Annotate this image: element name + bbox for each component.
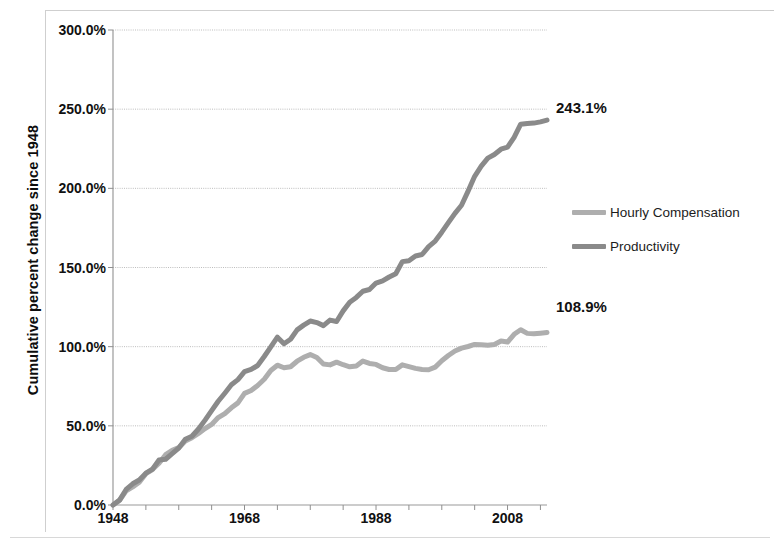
compensation-end-value-label: 108.9% bbox=[556, 298, 607, 315]
x-tick-label: 1948 bbox=[78, 510, 148, 526]
legend-swatch-icon bbox=[572, 210, 606, 215]
legend-swatch-icon bbox=[572, 244, 606, 249]
y-axis-tick-labels: 0.0%50.0%100.0%150.0%200.0%250.0%300.0% bbox=[36, 30, 106, 505]
y-tick-label: 200.0% bbox=[36, 181, 106, 195]
y-tick-label: 250.0% bbox=[36, 102, 106, 116]
x-tick-label: 1968 bbox=[210, 510, 280, 526]
productivity-end-value-label: 243.1% bbox=[556, 99, 607, 116]
y-tick-label: 100.0% bbox=[36, 340, 106, 354]
legend-item: Productivity bbox=[572, 235, 772, 257]
figure-bottom-rule bbox=[10, 537, 770, 538]
legend-item-label: Hourly Compensation bbox=[610, 205, 740, 220]
y-tick-label: 300.0% bbox=[36, 23, 106, 37]
series-line-productivity bbox=[113, 120, 547, 505]
chart-legend: Hourly CompensationProductivity bbox=[572, 201, 772, 269]
x-tick-label: 1988 bbox=[341, 510, 411, 526]
x-tick-label: 2008 bbox=[473, 510, 543, 526]
legend-item: Hourly Compensation bbox=[572, 201, 772, 223]
y-tick-label: 50.0% bbox=[36, 419, 106, 433]
series-line-hourly-compensation bbox=[113, 330, 547, 505]
productivity-pay-gap-chart: Cumulative percent change since 1948 0.0… bbox=[0, 0, 774, 545]
y-tick-label: 150.0% bbox=[36, 261, 106, 275]
legend-item-label: Productivity bbox=[610, 239, 680, 254]
plot-area bbox=[113, 30, 547, 505]
figure-top-rule bbox=[45, 10, 774, 11]
plot-canvas bbox=[113, 30, 547, 505]
x-axis-tick-labels: 1948196819882008 bbox=[113, 510, 547, 536]
